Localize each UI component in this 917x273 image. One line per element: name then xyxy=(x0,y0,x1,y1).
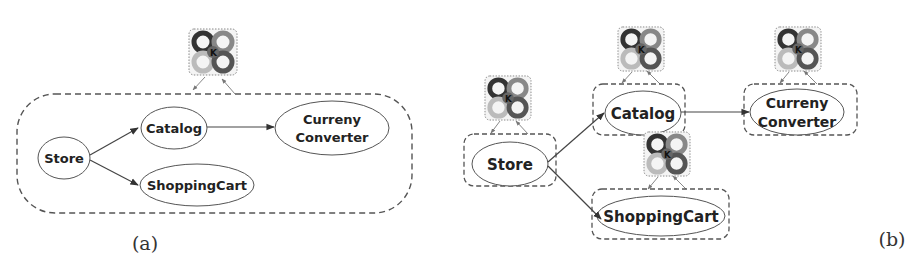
node-label: ShoppingCart xyxy=(147,178,247,193)
figure-canvas: K Store Catalog Curreny Converter Sh xyxy=(0,0,917,273)
node-store[interactable]: Store xyxy=(38,137,90,179)
caption-a: (a) xyxy=(132,232,158,254)
panel-b: Store Catalog Curreny Converter Shopping… xyxy=(464,27,906,250)
controller-effector-arrow xyxy=(648,177,658,189)
caption-b: (b) xyxy=(879,228,906,250)
mape-k-loop-icon xyxy=(775,27,821,71)
node-store[interactable]: Store xyxy=(472,142,548,186)
node-label: Catalog xyxy=(146,121,202,136)
node-label-line-1: Curreny xyxy=(303,112,362,127)
controller-effector-arrow xyxy=(491,121,500,133)
node-shopping-cart[interactable]: ShoppingCart xyxy=(140,164,254,206)
panel-a: Store Catalog Curreny Converter Shopping… xyxy=(17,29,412,254)
node-currency-converter[interactable]: Curreny xyxy=(275,101,389,155)
mape-k-loop-icon xyxy=(644,132,690,176)
mape-k-loop-icon xyxy=(618,27,664,71)
node-catalog[interactable]: Catalog xyxy=(141,107,207,149)
mape-k-loop-icon xyxy=(189,29,237,75)
controller-sensor-arrow xyxy=(804,71,817,84)
controller-effector-arrow xyxy=(780,72,789,83)
node-label: Store xyxy=(487,156,533,174)
edge-store-cart xyxy=(90,160,138,185)
controller-sensor-arrow xyxy=(647,71,660,84)
node-label-line-1: Curreny xyxy=(766,95,829,111)
node-catalog[interactable]: Catalog xyxy=(605,91,681,135)
edge-store-cart xyxy=(548,166,601,219)
edge-store-catalog xyxy=(548,113,604,162)
controller-sensor-arrow xyxy=(673,176,686,189)
controller-effector-arrow xyxy=(622,72,632,83)
controller-sensor-arrow xyxy=(222,79,235,94)
node-label: Catalog xyxy=(611,105,676,123)
edge-store-catalog xyxy=(90,128,138,155)
node-label: Store xyxy=(44,151,84,166)
node-shopping-cart[interactable]: ShoppingCart xyxy=(597,196,725,236)
node-label: ShoppingCart xyxy=(603,208,719,226)
node-label-line-2: Converter xyxy=(758,114,837,130)
mape-k-loop-icon xyxy=(485,76,531,120)
controller-effector-arrow xyxy=(193,77,205,90)
node-label-line-2: Converter xyxy=(296,130,369,145)
controller-sensor-arrow xyxy=(516,121,528,134)
